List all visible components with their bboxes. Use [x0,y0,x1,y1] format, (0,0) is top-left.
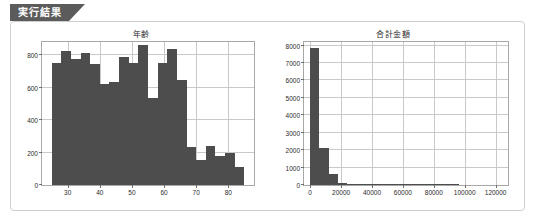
y-axis-tick-label: 600 [27,84,42,91]
x-axis-tick-mark [434,185,435,188]
y-axis-tick-label: 0 [296,182,304,189]
histogram-bar [61,51,71,185]
histogram-bar [100,84,110,185]
x-axis-tick-mark [228,185,229,188]
histogram-bar [225,153,235,186]
histogram-bar [319,148,328,185]
execution-result-tab-label: 実行結果 [10,4,69,21]
y-axis-tick-mark [39,152,42,153]
x-axis-tick-mark [196,185,197,188]
histogram-bar [167,49,177,185]
chart-age-bars [42,42,254,185]
histogram-bar [412,184,421,185]
y-axis-tick-mark [301,97,304,98]
histogram-bar [119,57,129,185]
x-axis-tick-mark [372,185,373,188]
histogram-bar [129,63,139,185]
chart-age: 年齢 0200400600800 304050607080 [17,26,265,208]
chart-total-amount-bars [304,42,508,185]
chart-age-plot-area: 0200400600800 304050607080 [41,41,255,186]
x-axis-tick-mark [310,185,311,188]
histogram-bar [109,82,119,185]
execution-result-tab: 実行結果 [10,4,85,21]
y-axis-tick-label: 6000 [286,77,304,84]
x-axis-tick-mark [403,185,404,188]
y-axis-tick-label: 7000 [286,59,304,66]
histogram-bar [384,184,393,185]
histogram-bar [52,63,62,185]
y-axis-tick-label: 2000 [286,147,304,154]
chart-total-amount: 合計金額 010002000300040005000600070008000 0… [267,26,519,208]
histogram-bar [81,53,91,185]
histogram-bar [329,174,338,185]
y-axis-tick-label: 0 [34,182,42,189]
tab-angled-edge [69,4,85,21]
histogram-bar [177,80,187,185]
y-axis-tick-mark [301,149,304,150]
y-axis-tick-mark [301,62,304,63]
histogram-bar [310,48,319,185]
histogram-bar [196,160,206,185]
chart-total-amount-title: 合計金額 [267,28,519,39]
y-axis-tick-label: 800 [27,52,42,59]
histogram-bar [90,64,100,185]
y-axis-tick-label: 4000 [286,112,304,119]
y-axis-tick-label: 5000 [286,94,304,101]
x-axis-tick-mark [496,185,497,188]
y-axis-tick-label: 200 [27,149,42,156]
result-panel: 年齢 0200400600800 304050607080 合計金額 01000… [10,21,525,211]
histogram-bar [71,59,81,185]
x-axis-tick-mark [100,185,101,188]
y-axis-tick-mark [301,132,304,133]
y-axis-tick-mark [301,45,304,46]
chart-age-title: 年齢 [17,28,265,39]
y-axis-tick-mark [39,184,42,185]
histogram-bar [187,147,197,185]
y-axis-tick-mark [301,114,304,115]
y-axis-tick-mark [301,79,304,80]
histogram-bar [235,167,245,185]
x-axis-tick-mark [132,185,133,188]
y-axis-tick-label: 3000 [286,129,304,136]
x-axis-tick-mark [68,185,69,188]
chart-total-amount-plot-area: 010002000300040005000600070008000 020000… [303,41,509,186]
y-axis-tick-label: 400 [27,117,42,124]
y-axis-tick-mark [39,87,42,88]
histogram-bar [158,63,168,185]
y-axis-tick-label: 1000 [286,164,304,171]
x-axis-tick-mark [341,185,342,188]
y-axis-tick-mark [301,167,304,168]
histogram-bar [215,156,225,185]
histogram-bar [138,45,148,185]
x-axis-tick-mark [164,185,165,188]
histogram-bar [206,146,216,185]
x-axis-tick-mark [465,185,466,188]
y-axis-tick-mark [301,184,304,185]
histogram-bar [148,98,158,185]
y-axis-tick-label: 8000 [286,42,304,49]
y-axis-tick-mark [39,54,42,55]
execution-result-screen: 実行結果 年齢 0200400600800 304050607080 合計金額 … [0,0,537,221]
y-axis-tick-mark [39,119,42,120]
